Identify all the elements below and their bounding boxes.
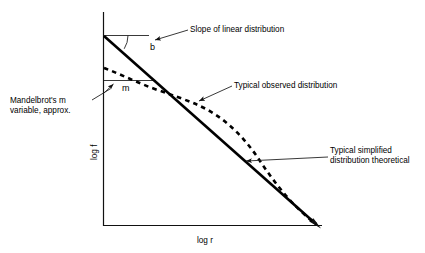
slope-symbol-label: b <box>150 42 155 52</box>
slope-leader-line <box>155 30 188 40</box>
series-observed-curve <box>104 68 316 224</box>
figure-root: Slope of linear distribution b Mandelbro… <box>0 0 425 253</box>
theoretical-label-line2: distribution theoretical <box>330 156 410 165</box>
mandelbrot-leader-line <box>92 89 110 100</box>
observed-label: Typical observed distribution <box>234 81 338 90</box>
theoretical-label-line1: Typical simplified <box>330 146 392 155</box>
labels-group: Slope of linear distribution b Mandelbro… <box>10 25 410 245</box>
log-log-distribution-chart: Slope of linear distribution b Mandelbro… <box>0 0 425 253</box>
observed-leader-line <box>199 86 232 101</box>
mandelbrot-label-line2: variable, approx. <box>10 106 71 115</box>
mandelbrot-symbol-label: m <box>122 83 130 93</box>
leaders-group <box>92 30 328 161</box>
y-axis-label: log f <box>90 144 99 160</box>
mandelbrot-label-line1: Mandelbrot's m <box>10 96 66 105</box>
slope-label: Slope of linear distribution <box>190 25 285 34</box>
axes-group <box>104 12 323 226</box>
series-group <box>104 36 321 229</box>
mandelbrot-arrow <box>104 84 114 93</box>
series-theoretical-line <box>104 36 316 224</box>
slope-angle-arc <box>124 36 128 49</box>
x-axis-label: log r <box>197 236 213 245</box>
